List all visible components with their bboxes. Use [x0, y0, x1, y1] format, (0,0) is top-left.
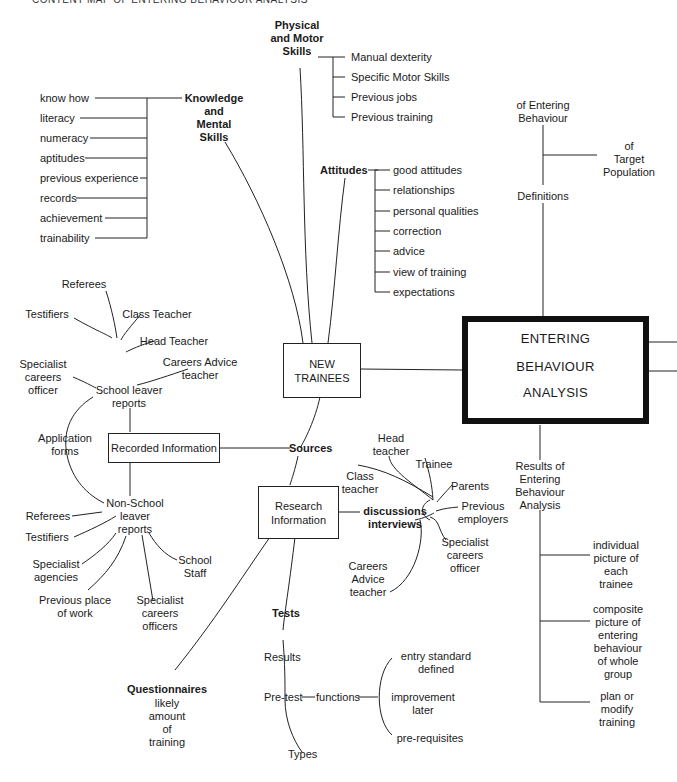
knowledge-item: records — [40, 192, 77, 205]
school-leaver-source: Class Teacher — [122, 308, 192, 321]
function-item: entry standard defined — [401, 650, 471, 676]
tests-results: Results — [264, 651, 301, 664]
physical-item: Previous training — [351, 111, 433, 124]
attitude-item: personal qualities — [393, 205, 479, 218]
tests-functions: functions — [316, 691, 360, 704]
school-leaver-source: Referees — [62, 278, 107, 291]
knowledge-item: know how — [40, 92, 89, 105]
attitude-item: relationships — [393, 184, 455, 197]
attitude-item: expectations — [393, 286, 455, 299]
diagram-title: CONTENT MAP OF ENTERING BEHAVIOUR ANALYS… — [32, 0, 308, 5]
knowledge-item: trainability — [40, 232, 90, 245]
knowledge-label: Knowledge and Mental Skills — [185, 92, 244, 144]
research-information-box: Research Information — [258, 486, 339, 539]
results-item: plan or modify training — [599, 690, 635, 729]
discussion-source: Previous employers — [458, 500, 509, 526]
entering-behaviour-analysis-box: ENTERING BEHAVIOUR ANALYSIS — [462, 316, 649, 424]
discussion-source: Class teacher — [342, 470, 379, 496]
definition-of-entering-behaviour: of Entering Behaviour — [516, 99, 569, 125]
application-forms-label: Application forms — [38, 432, 92, 458]
attitude-item: good attitudes — [393, 164, 462, 177]
new-trainees-box: NEW TRAINEES — [283, 343, 361, 398]
knowledge-item: achievement — [40, 212, 102, 225]
discussion-source: Head teacher — [373, 432, 410, 458]
discussion-source: Careers Advice teacher — [348, 560, 387, 599]
results-item: composite picture of entering behaviour … — [593, 603, 643, 681]
physical-motor-label: Physical and Motor Skills — [270, 19, 323, 58]
discussion-source: Specialist careers officer — [441, 536, 488, 575]
knowledge-item: numeracy — [40, 132, 88, 145]
discussions-interviews-label: discussions interviews — [363, 505, 427, 531]
results-eba-label: Results of Entering Behaviour Analysis — [515, 460, 565, 512]
central-line-1: ENTERING — [468, 331, 643, 346]
attitude-item: view of training — [393, 266, 466, 279]
non-school-leaver-reports-label: Non-School leaver reports — [106, 497, 163, 536]
physical-item: Previous jobs — [351, 91, 417, 104]
attitude-item: correction — [393, 225, 441, 238]
physical-item: Specific Motor Skills — [351, 71, 449, 84]
non-school-source: Referees — [26, 510, 71, 523]
non-school-source: Previous place of work — [39, 594, 111, 620]
attitudes-label: Attitudes — [320, 164, 368, 177]
school-leaver-source: Specialist careers officer — [19, 358, 66, 397]
questionnaires-label: Questionnaires — [127, 683, 207, 696]
tests-types: Types — [288, 748, 317, 761]
function-item: improvement later — [391, 691, 455, 717]
discussion-source: Parents — [451, 480, 489, 493]
knowledge-item: previous experience — [40, 172, 138, 185]
non-school-source: Specialist careers officers — [136, 594, 183, 633]
discussion-source: Trainee — [416, 458, 453, 471]
attitude-item: advice — [393, 245, 425, 258]
physical-item: Manual dexterity — [351, 51, 432, 64]
central-line-2: BEHAVIOUR — [468, 359, 643, 374]
school-leaver-reports-label: School leaver reports — [96, 384, 163, 410]
results-item: individual picture of each trainee — [593, 539, 639, 591]
function-item: pre-requisites — [397, 732, 464, 745]
tests-pretest: Pre-test — [264, 691, 303, 704]
non-school-source: Specialist agencies — [32, 558, 79, 584]
sources-label: Sources — [289, 442, 332, 455]
tests-label: Tests — [272, 607, 300, 620]
school-leaver-source: Careers Advice teacher — [163, 356, 238, 382]
questionnaires-sub: likely amount of training — [149, 697, 186, 749]
school-leaver-source: Head Teacher — [140, 335, 208, 348]
knowledge-item: literacy — [40, 112, 75, 125]
knowledge-item: aptitudes — [40, 152, 85, 165]
school-leaver-source: Testifiers — [25, 308, 68, 321]
definition-of-target-population: of Target Population — [603, 140, 655, 179]
central-line-3: ANALYSIS — [468, 385, 643, 400]
non-school-source: Testifiers — [25, 531, 68, 544]
non-school-source: School Staff — [178, 554, 212, 580]
definitions-label: Definitions — [517, 190, 568, 203]
recorded-information-box: Recorded Information — [108, 433, 220, 463]
content-map-diagram: CONTENT MAP OF ENTERING BEHAVIOUR ANALYS… — [0, 0, 677, 782]
